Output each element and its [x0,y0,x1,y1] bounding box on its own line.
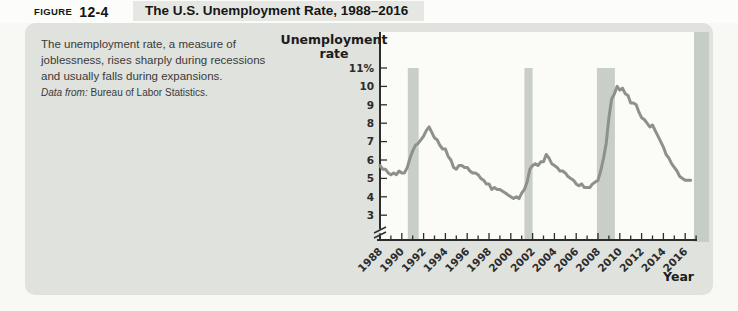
caption-source-text: Bureau of Labor Statistics. [90,87,207,98]
figure-title: The U.S. Unemployment Rate, 1988–2016 [133,1,424,21]
caption-line: joblessness, rises sharply during recess… [41,52,301,68]
figure-number: 12-4 [79,4,108,20]
caption-source-label: Data from: [41,87,88,98]
caption-line: and usually falls during expansions. [41,68,301,84]
figure-word: FIGURE [34,6,72,17]
caption-line: The unemployment rate, a measure of [41,36,301,52]
caption-source: Data from: Bureau of Labor Statistics. [41,86,301,100]
figure-header: FIGURE 12-4 The U.S. Unemployment Rate, … [0,0,738,23]
figure-caption: The unemployment rate, a measure of jobl… [41,36,301,100]
figure-label: FIGURE 12-4 [28,0,115,23]
textbook-figure-page: 11%1098765431988199019921994199619982000… [0,0,738,311]
